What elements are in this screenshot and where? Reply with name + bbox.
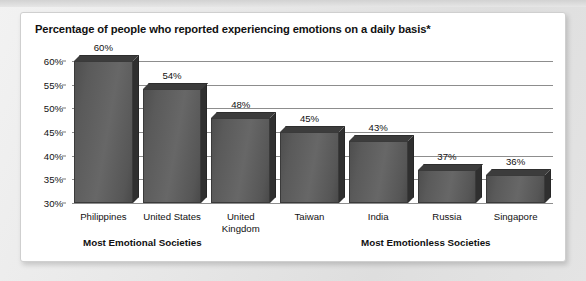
bar-top-face [143,83,208,89]
grid-area: 60%54%48%45%43%37%36% [72,61,553,203]
bar-slot: 54% [143,61,202,203]
bar-top-face [280,126,345,132]
bar-top-face [211,112,276,118]
bar: 37% [418,170,477,203]
x-axis-category-label: India [349,211,408,223]
bar-top-face [74,55,139,61]
y-axis-tick-mark [62,155,66,156]
bar-front-face [280,132,339,203]
y-axis-tick-mark [62,108,66,109]
bar-side-face [270,112,276,203]
bar-slot: 60% [74,61,133,203]
bar-value-label: 48% [211,99,270,110]
bar: 45% [280,132,339,203]
bar-side-face [408,135,414,203]
x-axis-category-label: Philippines [74,211,133,223]
y-axis-tick-mark [62,179,66,180]
bar: 54% [143,89,202,203]
bar: 48% [211,118,270,203]
footer-caption-left: Most Emotional Societies [83,237,202,248]
bar-slot: 45% [280,61,339,203]
y-axis-tick-label: 30% [44,198,63,209]
bar-value-label: 43% [349,122,408,133]
y-axis-tick-label: 50% [44,103,63,114]
bar-top-face [486,169,551,175]
bar: 60% [74,61,133,203]
y-axis-tick-label: 60% [44,56,63,67]
x-axis-category-label: Taiwan [280,211,339,223]
y-axis-tick-mark [62,84,66,85]
bar: 36% [486,175,545,203]
bar-front-face [74,61,133,203]
x-axis-category-label: Russia [418,211,477,223]
y-axis: 60%55%50%45%40%35%30% [35,61,66,203]
x-axis-category-label: Singapore [486,211,545,223]
bar-slot: 43% [349,61,408,203]
bar-side-face [133,55,139,203]
bar-front-face [349,141,408,203]
bar-top-face [418,164,483,170]
bar-value-label: 45% [280,113,339,124]
bar-side-face [201,83,207,203]
chart-card: Percentage of people who reported experi… [20,12,566,262]
y-axis-tick-label: 45% [44,127,63,138]
y-axis-tick-label: 40% [44,150,63,161]
bar-side-face [476,164,482,203]
bar-value-label: 54% [143,70,202,81]
bar-slot: 37% [418,61,477,203]
chart-title: Percentage of people who reported experi… [35,22,455,37]
y-axis-tick-mark [62,132,66,133]
bar-slot: 48% [211,61,270,203]
y-axis-tick-mark [62,61,66,62]
footer-caption-right: Most Emotionless Societies [361,237,491,248]
bar-value-label: 60% [74,42,133,53]
bar-series: 60%54%48%45%43%37%36% [72,61,553,203]
bar-front-face [143,89,202,203]
bar-slot: 36% [486,61,545,203]
bar-front-face [486,175,545,203]
bar-front-face [211,118,270,203]
bar-side-face [339,126,345,203]
bar: 43% [349,141,408,203]
y-axis-tick-mark [62,203,66,204]
bar-front-face [418,170,477,203]
x-axis-category-label: United States [143,211,202,223]
bar-value-label: 37% [418,151,477,162]
x-axis-category-label: United Kingdom [211,211,270,234]
chart-plot-area: 60%55%50%45%40%35%30% 60%54%48%45%43%37%… [35,61,553,213]
bar-value-label: 36% [486,156,545,167]
y-axis-tick-label: 35% [44,174,63,185]
bar-top-face [349,135,414,141]
x-axis-line [72,203,553,204]
y-axis-tick-label: 55% [44,79,63,90]
